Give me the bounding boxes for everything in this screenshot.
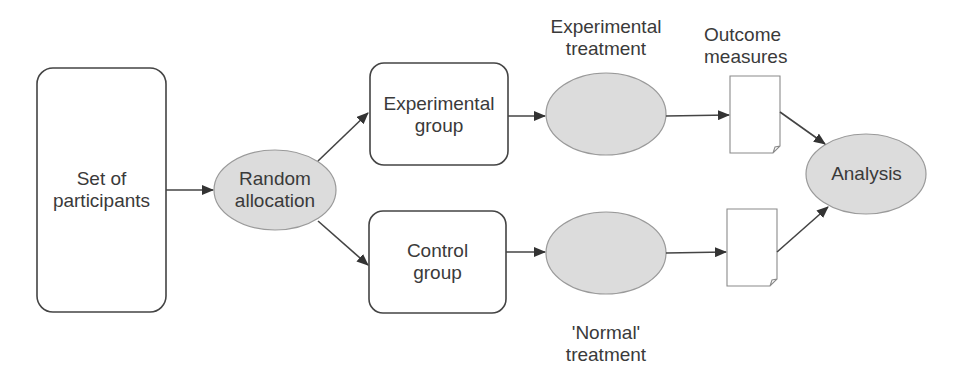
experimental-treatment-line2: treatment (526, 38, 686, 60)
experimental-group-label: Experimental group (370, 93, 508, 137)
experimental-treatment-line1: Experimental (526, 16, 686, 38)
outcome-measures-line1: Outcome (704, 24, 834, 46)
arrow-random-to-experimental (318, 113, 368, 161)
random-allocation-line1: Random (214, 168, 336, 190)
experimental-treatment-ellipse (546, 73, 666, 155)
random-allocation-label: Random allocation (214, 168, 336, 212)
arrow-normaltreatment-to-outcome (666, 252, 726, 253)
control-group-line1: Control (369, 240, 506, 262)
experimental-group-line1: Experimental (370, 93, 508, 115)
arrow-exptreatment-to-outcome (666, 115, 729, 116)
participants-label-line2: participants (37, 190, 166, 212)
arrow-outcome-top-to-analysis (780, 112, 825, 144)
outcome-document-bottom-icon (727, 209, 777, 286)
outcome-measures-label: Outcome measures (695, 24, 834, 68)
participants-label: Set of participants (37, 168, 166, 212)
outcome-document-top-icon (730, 76, 780, 153)
participants-label-line1: Set of (37, 168, 166, 190)
normal-treatment-line1: 'Normal' (526, 322, 686, 344)
analysis-label: Analysis (806, 163, 927, 185)
arrow-random-to-control (318, 221, 368, 265)
outcome-measures-line2: measures (704, 46, 834, 68)
random-allocation-line2: allocation (214, 190, 336, 212)
analysis-label-text: Analysis (806, 163, 927, 185)
normal-treatment-ellipse (546, 212, 666, 294)
experimental-treatment-label: Experimental treatment (526, 16, 686, 60)
control-group-line2: group (369, 262, 506, 284)
normal-treatment-line2: treatment (526, 344, 686, 366)
control-group-label: Control group (369, 240, 506, 284)
experimental-group-line2: group (370, 115, 508, 137)
normal-treatment-label: 'Normal' treatment (526, 322, 686, 366)
arrow-outcome-bottom-to-analysis (777, 207, 828, 252)
